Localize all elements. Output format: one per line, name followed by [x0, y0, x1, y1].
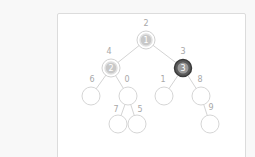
node-value-right: 3 [180, 64, 185, 73]
tree-node-lrl[interactable] [109, 115, 127, 133]
tree-node-rr[interactable] [192, 87, 210, 105]
node-label-rl: 1 [160, 75, 165, 84]
tree-node-ll[interactable] [82, 87, 100, 105]
node-label-lrr: 5 [137, 105, 142, 114]
node-label-lr: 0 [124, 75, 129, 84]
node-label-left: 4 [106, 47, 111, 56]
node-label-right: 3 [180, 47, 185, 56]
node-label-rrr: 9 [208, 103, 213, 112]
tree-node-rrr[interactable] [201, 115, 219, 133]
node-label-lrl: 7 [113, 105, 118, 114]
node-label-rr: 8 [197, 75, 202, 84]
node-label-ll: 6 [89, 75, 94, 84]
node-value-root: 1 [143, 36, 148, 45]
tree-node-root[interactable]: 1 [137, 31, 155, 49]
binary-tree-diagram: 2 4 3 6 0 1 8 7 5 9 1 2 3 [0, 0, 255, 157]
tree-node-rl[interactable] [155, 87, 173, 105]
tree-node-lr[interactable] [119, 87, 137, 105]
node-label-root: 2 [143, 19, 148, 28]
tree-node-left[interactable]: 2 [102, 59, 120, 77]
tree-node-right-current[interactable]: 3 [175, 60, 192, 77]
node-value-left: 2 [108, 64, 113, 73]
tree-node-lrr[interactable] [128, 115, 146, 133]
